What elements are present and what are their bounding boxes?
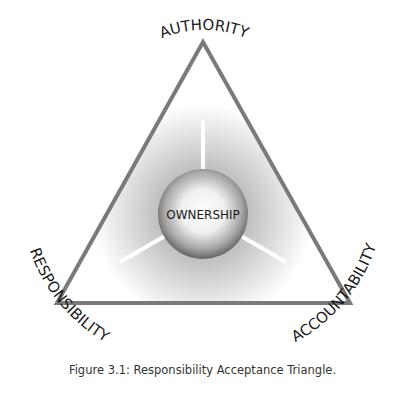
responsibility-triangle-diagram: OWNERSHIP AUTHORITY RESPONSIBILITY ACCOU…: [0, 0, 405, 400]
center-label: OWNERSHIP: [166, 208, 240, 222]
label-authority: AUTHORITY: [157, 16, 252, 43]
figure-caption: Figure 3.1: Responsibility Acceptance Tr…: [0, 363, 405, 377]
